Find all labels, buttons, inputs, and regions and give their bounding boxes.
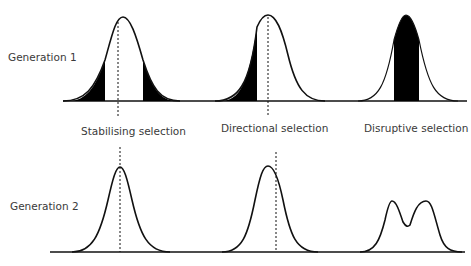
label-directional-selection: Directional selection [221, 122, 328, 134]
directional-gen1-curve [215, 15, 325, 101]
row-label-generation-2: Generation 2 [10, 200, 79, 212]
directional-gen2-curve [222, 166, 318, 252]
stabilising-gen2-curve [72, 167, 170, 252]
label-stabilising-selection: Stabilising selection [81, 125, 186, 137]
disruptive-gen2-curve [360, 201, 462, 252]
row-label-generation-1: Generation 1 [8, 51, 77, 63]
stabilising-gen1-curve [63, 17, 180, 101]
natural-selection-diagram: Generation 1 Generation 2 Stabilising se… [0, 0, 471, 266]
stabilising-left-tail-shade [70, 60, 105, 101]
stabilising-right-tail-shade [143, 60, 175, 101]
label-disruptive-selection: Disruptive selection [364, 122, 468, 134]
